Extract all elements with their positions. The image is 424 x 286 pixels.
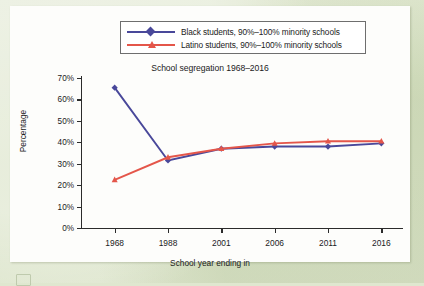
x-tick-label: 2011 (319, 238, 337, 248)
x-tick-label: 1968 (105, 238, 124, 248)
series-line-black-students (115, 88, 382, 161)
y-tick-label: 30% (58, 159, 74, 168)
legend-item-black-students: Black students, 90%–100% minority school… (127, 25, 359, 38)
y-tick-label: 0% (62, 224, 74, 233)
x-tick (115, 228, 116, 233)
legend-label-black-students: Black students, 90%–100% minority school… (175, 27, 340, 37)
x-tick (221, 228, 222, 233)
x-tick (168, 228, 169, 233)
diamond-marker-icon (146, 27, 156, 37)
y-tick-label: 50% (58, 116, 74, 125)
x-tick (381, 228, 382, 233)
x-tick (275, 228, 276, 233)
x-tick-label: 2001 (212, 238, 231, 248)
x-axis-line (81, 228, 403, 229)
page-corner-mark (16, 274, 31, 286)
chart-legend: Black students, 90%–100% minority school… (120, 21, 366, 54)
x-tick-label: 2006 (265, 238, 284, 248)
y-tick-label: 40% (58, 138, 74, 147)
legend-key-latino-students (127, 39, 175, 50)
triangle-marker-icon (148, 41, 156, 48)
diamond-marker-icon (325, 143, 331, 149)
y-tick-label: 60% (58, 95, 74, 104)
x-axis-label: School year ending in (10, 258, 410, 268)
legend-key-black-students (127, 26, 175, 37)
y-tick (77, 228, 82, 229)
y-tick-label: 10% (58, 202, 74, 211)
x-tick-label: 1988 (159, 238, 178, 248)
plot-area: 0%10%20%30%40%50%60%70% 1968198820012006… (82, 78, 402, 228)
y-tick-label: 20% (58, 181, 74, 190)
series-lines (82, 78, 402, 228)
x-tick-label: 2016 (372, 238, 391, 248)
chart-title: School segregation 1968–2016 (10, 63, 410, 73)
legend-item-latino-students: Latino students, 90%–100% minority schoo… (127, 38, 359, 51)
y-axis-label: Percentage (18, 96, 28, 166)
y-tick-label: 70% (58, 74, 74, 83)
chart-card: Black students, 90%–100% minority school… (10, 6, 410, 262)
legend-label-latino-students: Latino students, 90%–100% minority schoo… (175, 40, 342, 50)
x-tick (328, 228, 329, 233)
